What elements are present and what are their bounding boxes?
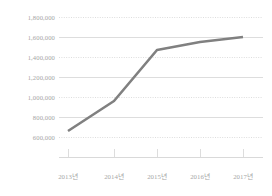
- x-tick-label-2015년: 2015년: [147, 173, 167, 181]
- x-tick-label-2013년: 2013년: [58, 173, 78, 181]
- x-axis-labels: 2013년2014년2015년2016년2017년: [0, 0, 272, 196]
- line-chart: 1,800,0001,600,0001,400,0001,200,0001,00…: [0, 0, 272, 196]
- x-tick-label-2017년: 2017년: [233, 173, 253, 181]
- x-tick-label-2016년: 2016년: [190, 173, 210, 181]
- x-tick-label-2014년: 2014년: [104, 173, 124, 181]
